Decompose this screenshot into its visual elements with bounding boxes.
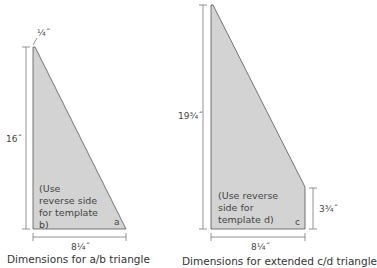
note-ab: (Use reverse side for template b): [39, 183, 99, 231]
side-dimension-cd: [309, 188, 317, 229]
height-label-ab: 16˝: [6, 135, 22, 144]
top-width-label-ab: ¼˝: [37, 29, 50, 38]
caption-ab: Dimensions for a/b triangle: [7, 253, 150, 265]
base-dimension-cd: [211, 233, 305, 241]
corner-label-a: a: [114, 217, 120, 227]
corner-label-c: c: [295, 217, 300, 227]
caption-cd: Dimensions for extended c/d triangle: [182, 255, 377, 267]
note-cd: (Use reverse side for template d): [218, 190, 298, 226]
base-label-ab: 8¼˝: [71, 243, 90, 252]
height-dimension-ab: [22, 47, 30, 229]
base-label-cd: 8¼˝: [251, 243, 270, 252]
base-dimension-ab: [33, 233, 126, 241]
quarter-inch-leader: [33, 38, 37, 45]
height-label-cd: 19¾˝: [178, 112, 203, 121]
side-label-cd: 3¾˝: [319, 205, 338, 214]
